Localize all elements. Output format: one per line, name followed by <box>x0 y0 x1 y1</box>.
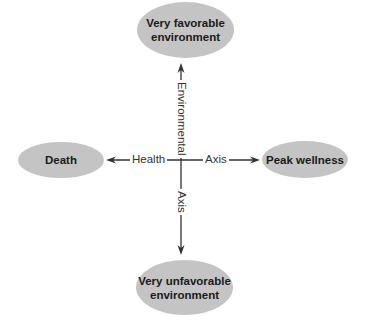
health-axis-label-right: Axis <box>203 153 229 166</box>
node-bottom-line1: Very unfavorable <box>138 274 231 288</box>
node-bottom-line2: environment <box>138 288 231 302</box>
node-top-line1: Very favorable <box>146 16 225 30</box>
environmental-axis-label-bottom: Axis <box>175 189 188 215</box>
environmental-axis-label-top: Environmental <box>175 80 188 158</box>
node-very-favorable-environment: Very favorable environment <box>137 2 234 58</box>
node-death: Death <box>18 142 104 178</box>
health-axis-label-left: Health <box>130 153 167 166</box>
node-top-line2: environment <box>146 30 225 44</box>
node-peak-wellness-label: Peak wellness <box>266 153 344 167</box>
health-environment-diagram: Very favorable environment Very unfavora… <box>0 0 370 320</box>
node-very-unfavorable-environment: Very unfavorable environment <box>136 260 233 315</box>
node-death-label: Death <box>45 153 77 167</box>
node-peak-wellness: Peak wellness <box>262 141 348 178</box>
